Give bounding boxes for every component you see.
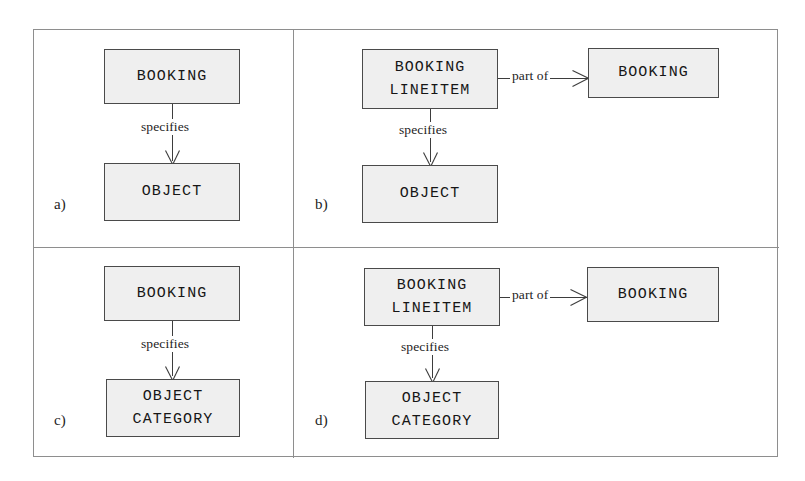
entity-booking-c: BOOKING: [104, 266, 240, 321]
entity-label-lineitem: LINEITEM: [392, 297, 473, 320]
relationship-label-specifies-a: specifies: [139, 119, 191, 135]
entity-object-category-d: OBJECT CATEGORY: [365, 381, 499, 439]
panel-a: a) BOOKING specifies OBJECT: [34, 30, 293, 247]
figure-frame: a) BOOKING specifies OBJECT b) BOOKING L…: [33, 29, 778, 457]
panel-label-b: b): [315, 196, 328, 213]
relationship-label-part-of-b: part of: [510, 68, 550, 84]
relationship-label-part-of-d: part of: [510, 287, 550, 303]
entity-label-object: OBJECT: [142, 180, 203, 203]
entity-label-category: CATEGORY: [133, 408, 214, 431]
entity-label-booking: BOOKING: [397, 274, 468, 297]
entity-object-a: OBJECT: [104, 163, 240, 221]
entity-booking-lineitem-d: BOOKING LINEITEM: [364, 268, 500, 326]
entity-booking-lineitem-b: BOOKING LINEITEM: [362, 49, 498, 109]
relationship-label-specifies-b: specifies: [397, 122, 449, 138]
panel-label-d: d): [315, 412, 328, 429]
entity-object-category-c: OBJECT CATEGORY: [106, 379, 240, 437]
panel-label-a: a): [54, 196, 66, 213]
arrowhead-right-d: [570, 289, 588, 306]
entity-label-booking: BOOKING: [618, 61, 689, 84]
entity-label-booking: BOOKING: [137, 282, 208, 305]
entity-label-lineitem: LINEITEM: [390, 79, 471, 102]
relationship-label-specifies-d: specifies: [399, 339, 451, 355]
panel-b: b) BOOKING LINEITEM part of BOOKING spec…: [294, 30, 779, 247]
entity-label-booking: BOOKING: [137, 65, 208, 88]
entity-label-object: OBJECT: [400, 182, 461, 205]
panel-d: d) BOOKING LINEITEM part of BOOKING spec…: [294, 248, 779, 458]
panel-c: c) BOOKING specifies OBJECT CATEGORY: [34, 248, 293, 458]
entity-label-object: OBJECT: [402, 387, 463, 410]
entity-label-booking: BOOKING: [618, 283, 689, 306]
entity-booking-a: BOOKING: [104, 49, 240, 104]
entity-booking-b: BOOKING: [588, 48, 719, 98]
entity-label-category: CATEGORY: [392, 410, 473, 433]
entity-label-booking: BOOKING: [395, 56, 466, 79]
entity-booking-d: BOOKING: [587, 267, 719, 322]
relationship-label-specifies-c: specifies: [139, 336, 191, 352]
entity-label-object: OBJECT: [143, 385, 204, 408]
panel-label-c: c): [54, 412, 66, 429]
entity-object-b: OBJECT: [362, 165, 498, 223]
